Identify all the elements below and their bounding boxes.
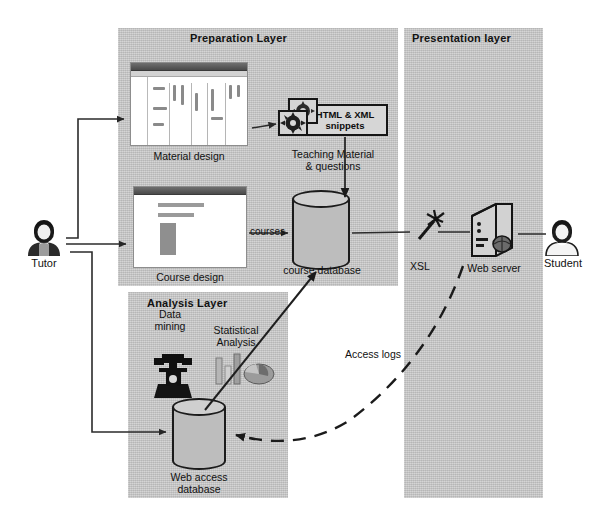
statistical-analysis-line2: Analysis [202, 336, 270, 348]
snippets-label-line2: snippets [325, 120, 364, 131]
material-design-label: Material design [130, 150, 248, 162]
statistical-analysis-label: Statistical Analysis [202, 324, 270, 348]
course-design-label: Course design [133, 271, 247, 283]
material-design-window [130, 62, 248, 146]
window-titlebar [134, 187, 246, 195]
data-mining-line1: Data [143, 308, 197, 320]
statistical-analysis-line1: Statistical [202, 324, 270, 336]
window-content-grid [151, 83, 243, 146]
data-mining-line2: mining [143, 320, 197, 332]
student-avatar-icon [542, 218, 582, 256]
image-stack-icon-front [278, 110, 308, 136]
statistical-chart-icon [214, 352, 276, 400]
teaching-material-line1: Teaching Material [268, 148, 398, 160]
teaching-material-line2: & questions [268, 160, 398, 172]
diagram-canvas: Preparation Layer Presentation layer Ana… [0, 0, 616, 522]
xsl-label: XSL [400, 260, 440, 272]
web-access-database-cylinder [172, 398, 226, 470]
course-database-cylinder [292, 190, 350, 270]
xsl-magic-wand-icon [412, 208, 446, 250]
web-access-db-line1: Web access [147, 471, 251, 483]
course-database-label: course database [266, 264, 378, 276]
tutor-avatar-icon [24, 218, 64, 256]
window-sidebar [131, 77, 148, 146]
window-body [131, 77, 247, 146]
course-design-window [133, 186, 247, 268]
edge-label-access-logs: Access logs [345, 348, 401, 360]
snippets-label-line1: HTML & XML [316, 109, 374, 120]
web-server-label: Web server [452, 262, 536, 274]
window-titlebar [131, 63, 247, 71]
panel-title-presentation-layer: Presentation layer [412, 32, 511, 44]
student-label: Student [532, 257, 594, 269]
picture-glyph-icon [280, 112, 306, 134]
edge-tutor-to-material-design [66, 119, 124, 238]
web-server-icon [466, 200, 518, 266]
data-mining-label: Data mining [143, 308, 197, 332]
panel-title-preparation-layer: Preparation Layer [190, 32, 287, 44]
edge-label-courses: courses [250, 226, 285, 237]
tutor-label: Tutor [16, 257, 72, 269]
window-body [134, 195, 246, 268]
web-access-db-line2: database [147, 483, 251, 495]
data-mining-excavator-icon [152, 348, 200, 404]
teaching-material-label: Teaching Material & questions [268, 148, 398, 172]
web-access-database-label: Web access database [147, 471, 251, 495]
